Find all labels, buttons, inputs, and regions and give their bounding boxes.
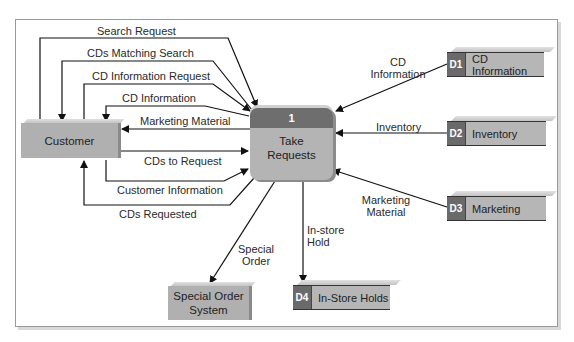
store-name: Inventory — [466, 122, 546, 145]
flow-label-instore-hold: In-store Hold — [307, 224, 344, 248]
flow-label-cds-requested: CDs Requested — [119, 208, 197, 220]
flow-label-cds-matching-search: CDs Matching Search — [87, 47, 194, 59]
data-store-d3[interactable]: D3 Marketing — [447, 196, 546, 221]
store-name: Marketing — [466, 197, 546, 220]
store-name: In-Store Holds — [312, 286, 390, 309]
flow-label-cds-to-request: CDs to Request — [144, 155, 222, 167]
flow-label-cd-information: CD Information — [122, 92, 196, 104]
data-store-d2[interactable]: D2 Inventory — [447, 121, 546, 146]
process-take-requests[interactable]: 1 Take Requests — [250, 108, 333, 180]
entity-customer[interactable]: Customer — [21, 123, 118, 158]
process-name: Take Requests — [250, 128, 333, 162]
flow-label-search-request: Search Request — [97, 25, 176, 37]
entity-special-order-system[interactable]: Special Order System — [168, 286, 249, 320]
flow-label-marketing-material-store: Marketing Material — [358, 194, 414, 218]
flow-label-marketing-material: Marketing Material — [140, 115, 230, 127]
flow-label-inventory: Inventory — [376, 121, 421, 133]
process-number: 1 — [250, 108, 333, 128]
store-id: D3 — [447, 197, 466, 220]
flow-label-customer-information: Customer Information — [117, 184, 223, 196]
entity-customer-label: Customer — [45, 134, 95, 148]
data-store-d4[interactable]: D4 In-Store Holds — [293, 285, 390, 310]
flow-label-cd-information-request: CD Information Request — [92, 70, 210, 82]
store-id: D4 — [293, 286, 312, 309]
store-id: D2 — [447, 122, 466, 145]
flow-label-special-order: Special Order — [236, 243, 276, 267]
entity-special-order-label: Special Order System — [173, 289, 243, 317]
store-id: D1 — [447, 53, 466, 76]
flow-label-cd-information-store: CD Information — [368, 56, 428, 80]
store-name: CD Information — [466, 53, 544, 76]
data-store-d1[interactable]: D1 CD Information — [447, 52, 544, 77]
